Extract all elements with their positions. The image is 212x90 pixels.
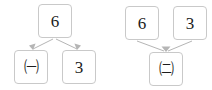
left-diagram-child-node-value[interactable]: 3 [62, 50, 96, 84]
edge-left-to-first-child [33, 39, 53, 49]
right-diagram-parent-node-second[interactable]: 3 [173, 6, 207, 40]
number-bond-canvas: 6 ㈠ 3 6 3 ㈡ [0, 0, 212, 90]
left-diagram-top-node[interactable]: 6 [38, 4, 72, 38]
edge-left-to-second-child [56, 39, 77, 49]
edge-right-second-to-result [168, 41, 192, 51]
right-diagram-parent-node-first[interactable]: 6 [125, 6, 159, 40]
right-diagram-result-node-unknown[interactable]: ㈡ [149, 52, 183, 86]
edge-right-first-to-result [137, 41, 164, 51]
left-diagram-child-node-unknown[interactable]: ㈠ [14, 50, 48, 84]
